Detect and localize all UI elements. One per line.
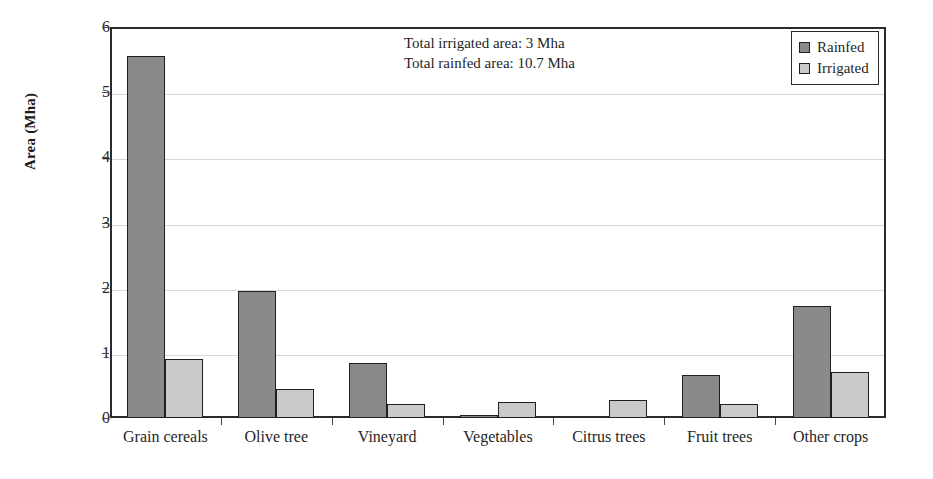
x-tick-mark — [332, 418, 333, 425]
y-tick-mark — [102, 418, 109, 419]
y-axis-ticks: 0123456 — [56, 0, 110, 479]
x-tick-mark — [443, 418, 444, 425]
legend-label: Rainfed — [817, 40, 864, 55]
x-category-label: Fruit trees — [664, 428, 775, 446]
legend-item-irrigated: Irrigated — [799, 58, 869, 79]
gridline — [112, 225, 884, 226]
chart-annotation: Total irrigated area: 3 MhaTotal rainfed… — [404, 33, 575, 74]
annotation-line: Total irrigated area: 3 Mha — [404, 33, 575, 53]
x-tick-mark — [775, 418, 776, 425]
x-category-label: Other crops — [775, 428, 886, 446]
gridline — [112, 290, 884, 291]
x-category-label: Citrus trees — [553, 428, 664, 446]
legend-swatch-icon — [799, 42, 810, 53]
chart-legend: RainfedIrrigated — [791, 31, 879, 85]
gridline — [112, 355, 884, 356]
plot-area — [110, 27, 886, 418]
x-category-label: Vineyard — [332, 428, 443, 446]
legend-label: Irrigated — [817, 61, 869, 76]
x-tick-mark — [221, 418, 222, 425]
x-category-label: Olive tree — [221, 428, 332, 446]
y-tick-mark — [102, 223, 109, 224]
annotation-line: Total rainfed area: 10.7 Mha — [404, 53, 575, 73]
y-tick-mark — [102, 157, 109, 158]
bar-chart-figure: Area (Mha) 0123456 Grain cerealsOlive tr… — [0, 0, 933, 479]
y-tick-mark — [102, 353, 109, 354]
x-tick-mark — [553, 418, 554, 425]
y-axis-title: Area (Mha) — [22, 0, 39, 170]
x-category-label: Grain cereals — [110, 428, 221, 446]
legend-item-rainfed: Rainfed — [799, 37, 869, 58]
gridline — [112, 159, 884, 160]
x-tick-mark — [664, 418, 665, 425]
y-tick-mark — [102, 92, 109, 93]
y-tick-mark — [102, 288, 109, 289]
legend-swatch-icon — [799, 63, 810, 74]
gridline — [112, 94, 884, 95]
y-tick-mark — [102, 27, 109, 28]
x-category-label: Vegetables — [443, 428, 554, 446]
